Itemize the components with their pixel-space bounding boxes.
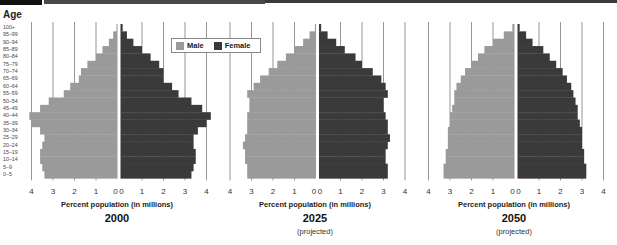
male-bar xyxy=(484,46,514,54)
male-bar xyxy=(454,98,514,106)
male-bar xyxy=(448,134,515,142)
male-bar xyxy=(504,31,515,39)
female-bar xyxy=(518,90,574,98)
male-bar xyxy=(446,149,515,157)
female-bar xyxy=(518,164,587,172)
x-tick-label: 3 xyxy=(580,187,585,196)
male-bar xyxy=(448,127,515,135)
female-bar xyxy=(518,39,533,47)
female-bar xyxy=(518,24,520,32)
pyramid-chart-2050: 4321001234 xyxy=(0,0,617,200)
legend-label-male: Male xyxy=(187,41,204,50)
female-bar xyxy=(518,112,578,120)
x-tick-label: 1 xyxy=(491,187,496,196)
female-bar xyxy=(518,46,544,54)
chart-title-2025: 2025 xyxy=(225,212,405,224)
female-bar xyxy=(518,31,527,39)
x-tick-label: 4 xyxy=(601,187,606,196)
female-bar xyxy=(518,68,563,76)
x-tick-label: 0 xyxy=(516,187,521,196)
legend-label-female: Female xyxy=(225,41,251,50)
x-tick-label: 2 xyxy=(469,187,474,196)
female-swatch-icon xyxy=(214,42,222,50)
male-bar xyxy=(454,90,514,98)
x-tick-label: 2 xyxy=(558,187,563,196)
male-bar xyxy=(444,164,515,172)
x-tick-label: 0 xyxy=(510,187,515,196)
chart-subtitle-2025: (projected) xyxy=(225,227,405,236)
x-axis-label-2050: Percent population (in millions) xyxy=(424,200,604,209)
male-bar xyxy=(493,39,515,47)
chart-subtitle-2050: (projected) xyxy=(424,227,604,236)
male-bar xyxy=(456,83,514,91)
legend-item-female: Female xyxy=(210,41,251,50)
female-bar xyxy=(518,171,587,179)
male-bar xyxy=(461,75,515,83)
female-bar xyxy=(518,149,585,157)
x-tick-label: 3 xyxy=(448,187,453,196)
female-bar xyxy=(518,75,567,83)
female-bar xyxy=(518,105,578,113)
male-bar xyxy=(472,61,515,69)
female-bar xyxy=(518,142,583,150)
male-bar xyxy=(448,142,515,150)
female-bar xyxy=(518,61,557,69)
female-bar xyxy=(518,120,580,128)
female-bar xyxy=(518,127,583,135)
legend-item-male: Male xyxy=(172,41,204,50)
female-bar xyxy=(518,134,583,142)
female-bar xyxy=(518,98,576,106)
x-tick-label: 4 xyxy=(426,187,431,196)
chart-title-2050: 2050 xyxy=(424,212,604,224)
male-bar xyxy=(444,171,515,179)
chart-legend: Male Female xyxy=(171,38,261,53)
chart-title-2000: 2000 xyxy=(27,212,207,224)
male-bar xyxy=(446,156,515,164)
male-bar xyxy=(452,105,514,113)
female-bar xyxy=(518,53,550,61)
male-bar xyxy=(450,120,515,128)
x-axis-label-2025: Percent population (in millions) xyxy=(225,200,405,209)
x-tick-label: 1 xyxy=(537,187,542,196)
male-swatch-icon xyxy=(176,42,184,50)
male-bar xyxy=(450,112,515,120)
x-axis-label-2000: Percent population (in millions) xyxy=(27,200,207,209)
female-bar xyxy=(518,156,585,164)
male-bar xyxy=(478,53,515,61)
male-bar xyxy=(465,68,514,76)
male-bar xyxy=(512,24,514,32)
female-bar xyxy=(518,83,572,91)
